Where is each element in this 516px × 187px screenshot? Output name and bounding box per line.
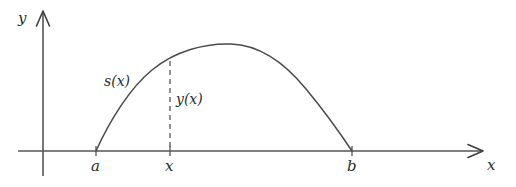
calculus-arc-length-figure: y x a x b s(x) y(x) xyxy=(0,0,516,187)
height-label: y(x) xyxy=(176,92,203,106)
tick-label-b: b xyxy=(347,159,357,174)
tick-label-x: x xyxy=(165,159,173,174)
x-axis-label: x xyxy=(487,158,495,173)
arc-length-label: s(x) xyxy=(104,74,130,88)
y-axis-label: y xyxy=(18,11,26,26)
figure-canvas xyxy=(0,0,516,187)
arch-curve xyxy=(96,44,352,151)
tick-label-a: a xyxy=(91,159,100,174)
